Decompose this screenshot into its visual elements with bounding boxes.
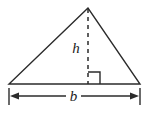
- height-label: h: [72, 40, 80, 56]
- base-label: b: [70, 88, 78, 104]
- right-angle-marker-icon: [88, 72, 100, 84]
- geometry-diagram-canvas: h b: [0, 0, 145, 118]
- arrow-left-icon: [10, 93, 19, 100]
- triangle-area-diagram: h b: [0, 0, 145, 118]
- arrow-right-icon: [130, 93, 139, 100]
